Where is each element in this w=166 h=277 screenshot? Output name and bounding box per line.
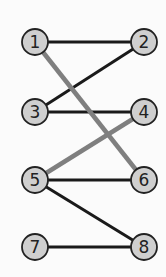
graph-canvas: 12345678 [0, 0, 166, 277]
node-1: 1 [22, 29, 48, 55]
node-7: 7 [22, 234, 48, 260]
node-label: 5 [30, 170, 41, 190]
node-label: 4 [139, 102, 150, 122]
node-5: 5 [22, 167, 48, 193]
edge-3-2 [35, 42, 144, 112]
edge-5-4 [35, 112, 144, 180]
node-label: 3 [30, 102, 41, 122]
node-8: 8 [131, 234, 157, 260]
node-label: 8 [139, 237, 150, 257]
edge-5-8 [35, 180, 144, 247]
node-2: 2 [131, 29, 157, 55]
node-label: 6 [139, 170, 150, 190]
node-label: 7 [30, 237, 41, 257]
edges-layer [35, 42, 144, 247]
node-3: 3 [22, 99, 48, 125]
node-label: 1 [30, 32, 41, 52]
node-4: 4 [131, 99, 157, 125]
node-6: 6 [131, 167, 157, 193]
node-label: 2 [139, 32, 150, 52]
